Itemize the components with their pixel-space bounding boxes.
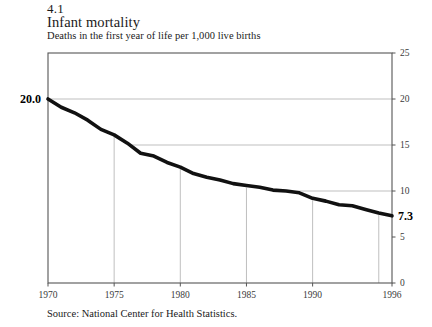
x-tick-label-1990: 1990	[303, 290, 322, 300]
figure-container: 4.1 Infant mortality Deaths in the first…	[0, 0, 432, 327]
end-value-annotation: 7.3	[398, 209, 413, 223]
x-tick-label-1980: 1980	[171, 290, 190, 300]
y-tick-label-5: 5	[400, 232, 405, 242]
x-tick-label-1996: 1996	[383, 290, 402, 300]
x-axis-tick-labels: 197019751980198519901996	[39, 290, 402, 300]
y-tick-label-15: 15	[400, 140, 410, 150]
figure-source: Source: National Center for Health Stati…	[47, 308, 237, 320]
y-tick-label-0: 0	[400, 278, 405, 288]
y-axis-tick-labels: 0510152025	[400, 48, 410, 288]
plot-background	[48, 53, 392, 283]
start-value-annotation: 20.0	[20, 92, 41, 106]
y-tick-label-10: 10	[400, 186, 410, 196]
line-chart: 197019751980198519901996 0510152025 20.0…	[0, 0, 432, 327]
y-tick-label-25: 25	[400, 48, 410, 58]
x-tick-label-1970: 1970	[39, 290, 58, 300]
x-tick-label-1985: 1985	[237, 290, 256, 300]
y-tick-label-20: 20	[400, 94, 410, 104]
x-tick-label-1975: 1975	[105, 290, 124, 300]
